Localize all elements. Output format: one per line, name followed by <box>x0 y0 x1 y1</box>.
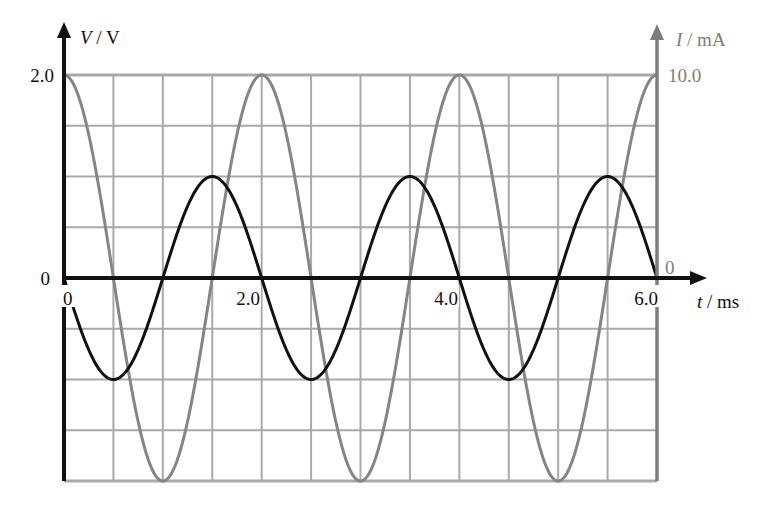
t-tick-0: 0 <box>63 288 73 309</box>
i-tick-10: 10.0 <box>668 65 701 86</box>
t-axis-title: t / ms <box>697 291 739 312</box>
t-tick-6: 6.0 <box>634 288 658 309</box>
t-axis-arrow-icon <box>690 271 707 285</box>
left-axis-arrow-icon <box>57 22 71 38</box>
right-axis-arrow-icon <box>650 24 664 40</box>
v-axis-title: V / V <box>80 27 120 48</box>
v-tick-0: 0 <box>41 268 51 289</box>
chart: V / V I / mA t / ms 2.0 0 10.0 0 0 2.0 4… <box>0 0 782 507</box>
i-axis-title: I / mA <box>675 29 726 50</box>
t-tick-2: 2.0 <box>236 288 260 309</box>
t-tick-4: 4.0 <box>434 288 458 309</box>
v-tick-2: 2.0 <box>30 65 54 86</box>
i-tick-0: 0 <box>665 257 675 278</box>
